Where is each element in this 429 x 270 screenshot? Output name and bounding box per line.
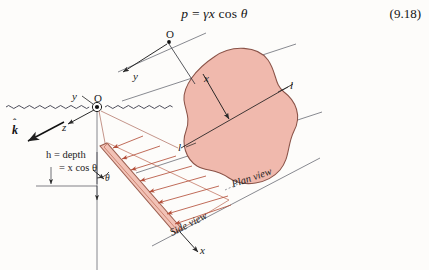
label-section-l-right: l bbox=[290, 79, 293, 91]
label-unit-vector-k: ˆ k bbox=[12, 123, 18, 138]
plan-view-surface-outline bbox=[184, 48, 298, 183]
top-origin-drop-line bbox=[169, 44, 195, 84]
pressure-arrow bbox=[158, 186, 219, 203]
label-origin-top: O bbox=[166, 28, 174, 40]
k-hat-accent: ˆ bbox=[13, 117, 16, 128]
label-axis-y-surface: y bbox=[72, 90, 77, 102]
label-section-l-left: l bbox=[178, 141, 181, 153]
free-surface-line bbox=[6, 106, 173, 109]
figure-page: p = γx cos θ (9.18) bbox=[0, 0, 429, 270]
ray-to-plate-top bbox=[99, 111, 106, 148]
ray-to-plate-right bbox=[101, 111, 178, 148]
axis-z-arrow bbox=[68, 110, 94, 124]
diagram-canvas bbox=[0, 0, 429, 270]
unit-vector-k-arrow bbox=[28, 122, 64, 141]
label-origin-surface: O bbox=[94, 92, 102, 104]
origin-top-point bbox=[167, 40, 171, 44]
pressure-arrow bbox=[149, 176, 206, 192]
pressure-arrow bbox=[113, 136, 143, 148]
label-axis-y-top: y bbox=[133, 70, 138, 82]
label-axis-x-side: x bbox=[200, 244, 205, 256]
axis-x-side-arrow bbox=[180, 232, 198, 252]
pressure-arrow bbox=[131, 156, 176, 170]
depth-line-1: h = depth bbox=[46, 148, 97, 161]
depth-line-2: = x cos θ bbox=[46, 161, 97, 174]
label-axis-x-plan: x bbox=[204, 72, 209, 84]
origin-surface-point bbox=[95, 105, 99, 109]
axis-y-surface-leader bbox=[82, 96, 93, 104]
water-surface-right bbox=[105, 106, 173, 109]
label-axis-z: z bbox=[62, 121, 66, 133]
axis-y-top-arrow bbox=[123, 44, 167, 72]
construction-line-upper bbox=[118, 33, 206, 72]
label-angle-theta: θ bbox=[105, 173, 110, 183]
depth-annotation: h = depth = x cos θ bbox=[46, 148, 97, 174]
water-surface-left bbox=[6, 106, 89, 109]
